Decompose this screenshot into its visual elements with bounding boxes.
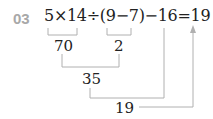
step-70: 70 (54, 37, 73, 55)
step-2: 2 (114, 37, 124, 55)
step-19: 19 (115, 99, 134, 117)
calculation-lines (0, 0, 213, 119)
step-35: 35 (82, 70, 101, 88)
